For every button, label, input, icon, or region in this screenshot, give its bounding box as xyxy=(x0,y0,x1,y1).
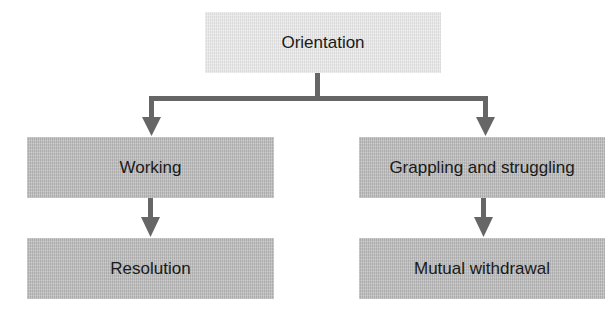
arrow-down-icon xyxy=(476,117,495,136)
node-label: Mutual withdrawal xyxy=(414,259,550,279)
right-lower-line xyxy=(481,198,486,220)
arrow-down-icon xyxy=(142,117,161,136)
arrow-down-icon xyxy=(474,217,493,237)
node-label: Grappling and struggling xyxy=(389,158,574,178)
root-stem-line xyxy=(315,73,320,100)
branch-horizontal-line xyxy=(149,96,488,101)
arrow-down-icon xyxy=(141,217,160,237)
right-drop-line xyxy=(483,96,488,120)
left-drop-line xyxy=(149,96,154,120)
left-lower-line xyxy=(148,198,153,220)
node-label: Orientation xyxy=(281,33,364,53)
node-mutual-withdrawal: Mutual withdrawal xyxy=(359,238,605,299)
node-grappling-and-struggling: Grappling and struggling xyxy=(359,137,605,198)
node-label: Resolution xyxy=(110,259,190,279)
node-resolution: Resolution xyxy=(27,238,274,299)
node-orientation: Orientation xyxy=(205,12,441,73)
node-working: Working xyxy=(27,137,274,198)
node-label: Working xyxy=(119,158,181,178)
